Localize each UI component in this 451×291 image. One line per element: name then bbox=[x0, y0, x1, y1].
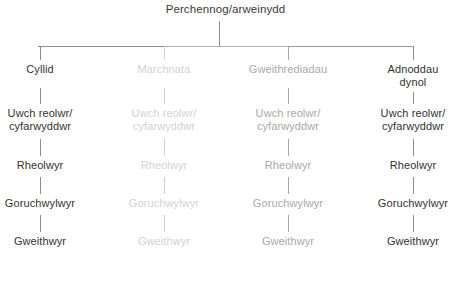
connector-tick bbox=[288, 88, 289, 104]
role-supervisors: Goruchwylwyr bbox=[226, 197, 350, 210]
connector-tick bbox=[288, 139, 289, 156]
connector-tick bbox=[413, 177, 414, 194]
role-workers: Gweithwyr bbox=[226, 235, 350, 248]
role-supervisors: Goruchwylwyr bbox=[0, 197, 102, 210]
branch-drop-connector bbox=[164, 46, 165, 60]
connector-tick bbox=[413, 215, 414, 232]
connector-tick bbox=[164, 177, 165, 194]
branch-drop-connector bbox=[40, 46, 41, 60]
role-line-2: cyfarwyddwr bbox=[0, 120, 102, 133]
connector-tick bbox=[413, 92, 414, 104]
department-label: Adnoddau dynol bbox=[351, 63, 451, 88]
role-line-2: cyfarwyddwr bbox=[351, 120, 451, 133]
department-label-line-2: dynol bbox=[351, 76, 451, 89]
role-line-2: cyfarwyddwr bbox=[102, 120, 226, 133]
connector-tick bbox=[164, 88, 165, 104]
connector-tick bbox=[40, 215, 41, 232]
role-line-2: cyfarwyddwr bbox=[226, 120, 350, 133]
connector-tick bbox=[164, 215, 165, 232]
role-managers: Rheolwyr bbox=[102, 159, 226, 172]
role-workers: Gweithwyr bbox=[102, 235, 226, 248]
connector-tick bbox=[288, 215, 289, 232]
org-chart: Perchennog/arweinydd Cyllid Uwch reolwr/… bbox=[0, 0, 451, 291]
role-managers: Rheolwyr bbox=[0, 159, 102, 172]
role-senior-manager: Uwch reolwr/ cyfarwyddwr bbox=[102, 107, 226, 132]
role-supervisors: Goruchwylwyr bbox=[351, 197, 451, 210]
connector-tick bbox=[288, 177, 289, 194]
role-line-1: Uwch reolwr/ bbox=[351, 107, 451, 120]
department-label: Marchnata bbox=[102, 63, 226, 76]
role-line-1: Uwch reolwr/ bbox=[102, 107, 226, 120]
role-managers: Rheolwyr bbox=[226, 159, 350, 172]
role-senior-manager: Uwch reolwr/ cyfarwyddwr bbox=[0, 107, 102, 132]
role-senior-manager: Uwch reolwr/ cyfarwyddwr bbox=[351, 107, 451, 132]
role-supervisors: Goruchwylwyr bbox=[102, 197, 226, 210]
root-stem-connector bbox=[219, 21, 220, 46]
department-label: Gweithrediadau bbox=[226, 63, 350, 76]
department-label: Cyllid bbox=[0, 63, 102, 76]
connector-tick bbox=[164, 139, 165, 156]
connector-tick bbox=[40, 88, 41, 104]
bus-bar-segment-left bbox=[38, 46, 165, 47]
connector-tick bbox=[40, 139, 41, 156]
branch-drop-connector bbox=[413, 46, 414, 60]
role-line-1: Uwch reolwr/ bbox=[226, 107, 350, 120]
role-line-1: Uwch reolwr/ bbox=[0, 107, 102, 120]
branch-drop-connector bbox=[288, 46, 289, 60]
root-node-label: Perchennog/arweinydd bbox=[0, 3, 451, 15]
connector-tick bbox=[413, 139, 414, 156]
role-workers: Gweithwyr bbox=[0, 235, 102, 248]
connector-tick bbox=[40, 177, 41, 194]
department-label-line-1: Adnoddau bbox=[351, 63, 451, 76]
bus-bar-segment-middle bbox=[164, 46, 289, 47]
role-workers: Gweithwyr bbox=[351, 235, 451, 248]
role-managers: Rheolwyr bbox=[351, 159, 451, 172]
role-senior-manager: Uwch reolwr/ cyfarwyddwr bbox=[226, 107, 350, 132]
bus-bar-segment-right bbox=[288, 46, 414, 47]
